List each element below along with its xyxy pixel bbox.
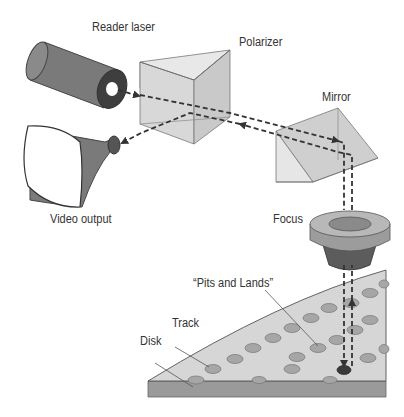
diagram-canvas [0,0,404,417]
mirror-prism-icon [276,108,378,182]
label-disk: Disk [140,334,161,348]
label-video-output: Video output [50,212,112,226]
label-mirror: Mirror [322,90,351,104]
label-focus: Focus [273,212,303,226]
label-polarizer: Polarizer [239,35,282,49]
label-pits-and-lands: “Pits and Lands” [193,276,273,290]
label-track: Track [172,316,199,330]
focus-lens-icon [310,211,390,270]
video-output-monitor-icon [24,126,120,207]
polarizer-prism-icon [140,50,230,144]
laser-spot [337,366,351,375]
label-reader-laser: Reader laser [92,20,155,34]
reader-laser-icon [22,39,132,112]
